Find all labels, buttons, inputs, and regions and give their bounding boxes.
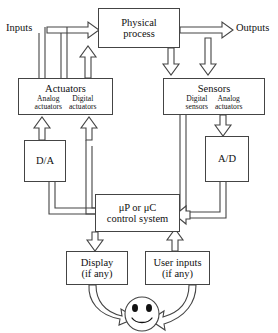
outputs-label: Outputs bbox=[236, 22, 269, 33]
display-line2: (if any) bbox=[81, 268, 112, 279]
actuators-title: Actuators bbox=[45, 83, 86, 94]
da-converter-box[interactable]: D/A bbox=[24, 140, 66, 182]
sensors-analog-sublabel: Analog actuators bbox=[215, 95, 242, 111]
inputs-arrow bbox=[47, 22, 99, 38]
inputs-label: Inputs bbox=[6, 22, 32, 33]
sensors-box[interactable]: Sensors Digital sensors Analog actuators bbox=[163, 78, 265, 115]
ad-converter-label: A/D bbox=[218, 153, 236, 164]
display-line1: Display bbox=[81, 257, 114, 268]
sensors-to-ad-arrow bbox=[215, 115, 231, 136]
outputs-arrow bbox=[180, 22, 233, 38]
diagram-canvas: .ln{fill:none;stroke:#444444;stroke-widt… bbox=[0, 0, 278, 333]
display-box[interactable]: Display (if any) bbox=[66, 251, 128, 285]
control-to-display-arrow bbox=[87, 232, 103, 251]
actuators-to-process-arrow bbox=[80, 46, 96, 78]
physical-process-box[interactable]: Physical process bbox=[98, 8, 180, 48]
actuators-box[interactable]: Actuators Analog actuators Digital actua… bbox=[18, 78, 113, 115]
control-to-actuators-digital-arrow bbox=[81, 117, 97, 140]
control-system-box[interactable]: μP or μC control system bbox=[95, 194, 180, 232]
user-inputs-line1: User inputs bbox=[153, 257, 201, 268]
user-inputs-line2: (if any) bbox=[162, 268, 193, 279]
physical-process-line1: Physical bbox=[121, 17, 157, 28]
control-system-line2: control system bbox=[107, 213, 169, 224]
user-inputs-box[interactable]: User inputs (if any) bbox=[145, 251, 210, 285]
actuators-digital-sublabel: Digital actuators bbox=[69, 95, 96, 111]
da-converter-label: D/A bbox=[36, 155, 54, 166]
actuators-analog-sublabel: Analog actuators bbox=[35, 95, 62, 111]
sensors-title: Sensors bbox=[198, 83, 231, 94]
process-to-sensors-arrow-right bbox=[200, 38, 216, 75]
da-to-actuators-arrow bbox=[34, 117, 50, 140]
sensors-digital-sublabel: Digital sensors bbox=[186, 95, 208, 111]
physical-process-line2: process bbox=[123, 28, 155, 39]
smiley-face-icon bbox=[125, 297, 159, 331]
process-to-sensors-arrow-left bbox=[163, 48, 179, 75]
userinputs-to-control-arrow bbox=[167, 229, 183, 251]
ad-to-control-line-a bbox=[186, 182, 220, 212]
ad-converter-box[interactable]: A/D bbox=[205, 136, 249, 182]
control-system-line1: μP or μC bbox=[119, 202, 157, 213]
